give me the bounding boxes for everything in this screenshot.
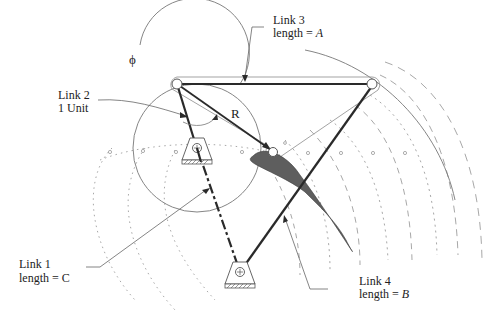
link-1-label-line1: Link 1 xyxy=(19,257,51,271)
joint-coupler-rocker xyxy=(367,79,377,89)
link-3-label-line1: Link 3 xyxy=(273,13,305,27)
joint-crank-coupler xyxy=(172,79,182,89)
joint-coupler-point xyxy=(269,148,278,157)
r-symbol: R xyxy=(231,106,240,121)
ground-pivot-crank xyxy=(182,138,212,164)
coupler-curve-family-right xyxy=(265,62,482,275)
link-2-label-line2: 1 Unit xyxy=(58,101,89,115)
link-4-rocker xyxy=(240,86,372,272)
link-4-label-line1: Link 4 xyxy=(359,274,391,288)
link-3-label-line2: length = A xyxy=(273,26,324,40)
phi-symbol: ϕ xyxy=(129,52,136,67)
phi-arc xyxy=(140,0,249,84)
link-2-label-line1: Link 2 xyxy=(58,88,90,102)
link-1-label-line2: length = C xyxy=(19,271,70,285)
ground-pivot-rocker xyxy=(225,262,255,288)
link-1-ground xyxy=(197,148,240,272)
fourbar-linkage-diagram: Link 3 length = A Link 2 1 Unit Link 1 l… xyxy=(0,0,498,326)
link-4-label-line2: length = B xyxy=(359,287,410,301)
